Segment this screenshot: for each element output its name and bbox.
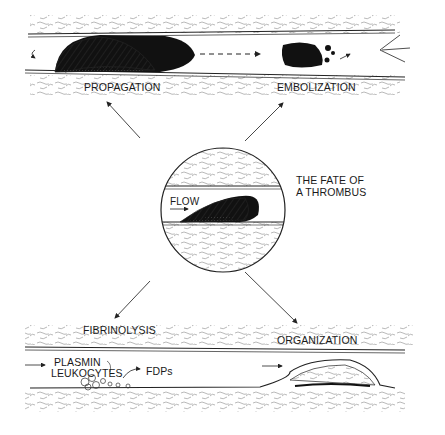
- organization-label: ORGANIZATION: [277, 335, 357, 346]
- propagation-label: PROPAGATION: [84, 82, 161, 93]
- flow-label: FLOW: [170, 196, 199, 207]
- arrow-fibrinolysis: [115, 281, 150, 318]
- title-line2: A THROMBUS: [296, 187, 366, 198]
- fibrinolysis-label: FIBRINOLYSIS: [83, 325, 156, 336]
- title-line1: THE FATE OF: [296, 175, 364, 186]
- leukocytes-label: LEUKOCYTES: [51, 368, 123, 379]
- center-circle: [160, 148, 290, 272]
- embolization-label: EMBOLIZATION: [277, 82, 356, 93]
- arrow-embolization: [245, 103, 283, 141]
- arrow-organization: [245, 272, 297, 323]
- arrow-propagation: [107, 102, 140, 138]
- fdps-label: FDPs: [146, 366, 173, 377]
